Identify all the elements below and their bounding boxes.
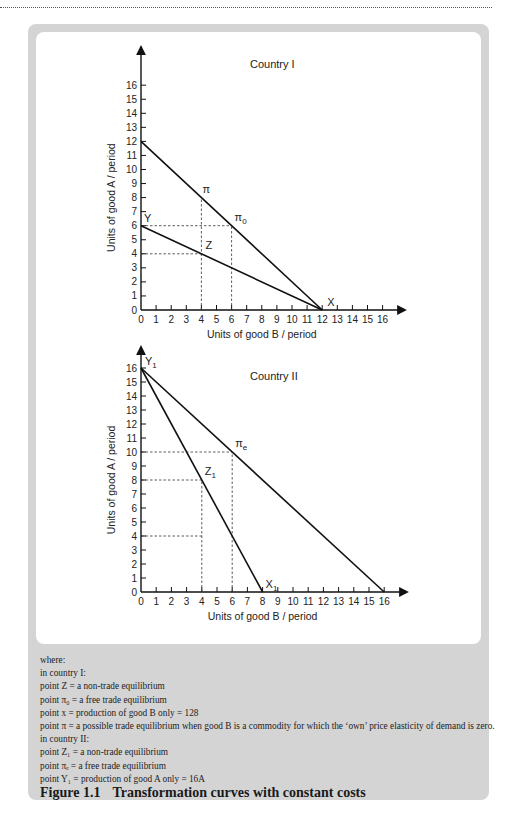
y-tick-label: 6	[131, 220, 137, 231]
curve-line	[141, 226, 322, 310]
y-tick-label: 10	[126, 164, 138, 175]
chart-title: Country I	[250, 58, 295, 70]
y-tick-label: 3	[131, 262, 137, 273]
point-label-y1: Y1	[145, 355, 157, 370]
x-tick-label: 1	[153, 314, 159, 325]
y-tick-label: 15	[126, 377, 138, 388]
point-label-z: Z	[205, 239, 212, 251]
caption-line: point π = a possible trade equilibrium w…	[40, 720, 500, 733]
point-label-pi: π	[202, 183, 210, 195]
point-label-pie: πe	[235, 437, 248, 452]
x-tick-label: 14	[347, 314, 359, 325]
y-tick-label: 3	[131, 545, 137, 556]
point-label-y: Y	[144, 212, 152, 224]
x-tick-label: 4	[199, 314, 205, 325]
y-tick-label: 4	[131, 248, 137, 259]
x-tick-label: 9	[274, 314, 280, 325]
y-tick-label: 9	[131, 178, 137, 189]
y-tick-label: 8	[131, 192, 137, 203]
caption-line: in country I:	[40, 667, 500, 680]
x-tick-label: 7	[245, 596, 251, 607]
y-tick-label: 0	[131, 305, 137, 316]
x-tick-label: 12	[317, 314, 329, 325]
y-tick-label: 16	[126, 80, 138, 91]
y-tick-label: 11	[127, 433, 138, 444]
x-tick-label: 11	[302, 314, 313, 325]
x-tick-label: 12	[318, 596, 330, 607]
caption-line: where:	[40, 654, 500, 667]
y-tick-label: 14	[126, 391, 138, 402]
y-tick-label: 12	[126, 136, 138, 147]
x-tick-label: 6	[229, 596, 235, 607]
x-tick-label: 0	[138, 314, 144, 325]
x-tick-label: 6	[229, 314, 235, 325]
x-tick-label: 3	[184, 314, 190, 325]
y-tick-label: 13	[126, 405, 138, 416]
point-label-z1: Z1	[205, 465, 217, 480]
x-tick-label: 16	[377, 314, 389, 325]
x-tick-label: 3	[184, 596, 190, 607]
x-axis-label: Units of good B / period	[207, 328, 317, 340]
caption-line: point πₑ = a free trade equilibrium	[40, 760, 500, 773]
caption-line: in country II:	[40, 733, 500, 746]
y-axis-label: Units of good A / period	[105, 143, 117, 252]
x-tick-label: 5	[214, 596, 220, 607]
x-axis-label: Units of good B / period	[208, 610, 318, 622]
y-axis-label: Units of good A / period	[105, 426, 117, 535]
x-tick-label: 7	[244, 314, 250, 325]
y-tick-label: 14	[126, 108, 138, 119]
x-tick-label: 14	[348, 596, 360, 607]
y-tick-label: 16	[126, 363, 138, 374]
chart-country-1: 0123456789101112131415160123456789101112…	[105, 50, 402, 340]
x-tick-label: 13	[332, 314, 344, 325]
x-tick-label: 10	[286, 314, 298, 325]
y-tick-label: 4	[131, 531, 137, 542]
point-label-x1: X1	[266, 578, 278, 593]
y-tick-label: 8	[131, 475, 137, 486]
caption-line: point Z₁ = a non-trade equilibrium	[40, 746, 500, 759]
y-tick-label: 13	[126, 122, 138, 133]
y-tick-label: 7	[131, 206, 137, 217]
y-tick-label: 10	[126, 447, 138, 458]
y-tick-label: 0	[131, 587, 137, 598]
chart-country-2: 0123456789101112131415160123456789101112…	[105, 350, 404, 622]
x-tick-label: 8	[260, 596, 266, 607]
x-tick-label: 4	[199, 596, 205, 607]
x-tick-label: 5	[214, 314, 220, 325]
x-tick-label: 10	[287, 596, 299, 607]
point-label-pi0: π0	[235, 211, 248, 226]
figure-title-text: Transformation curves with constant cost…	[112, 785, 365, 800]
y-tick-label: 1	[131, 573, 137, 584]
y-tick-label: 2	[131, 276, 137, 287]
y-tick-label: 2	[131, 559, 137, 570]
x-tick-label: 2	[169, 596, 175, 607]
x-tick-label: 15	[363, 596, 375, 607]
x-tick-label: 8	[259, 314, 265, 325]
y-tick-label: 11	[127, 150, 138, 161]
y-tick-label: 15	[126, 94, 138, 105]
chart-title: Country II	[250, 370, 298, 382]
x-tick-label: 15	[362, 314, 374, 325]
x-tick-label: 16	[379, 596, 391, 607]
y-tick-label: 5	[131, 517, 137, 528]
figure-number: Figure 1.1	[40, 785, 100, 800]
y-tick-label: 6	[131, 503, 137, 514]
x-tick-label: 1	[153, 596, 159, 607]
y-tick-label: 1	[131, 290, 137, 301]
x-tick-label: 2	[168, 314, 174, 325]
point-label-x: X	[327, 296, 335, 308]
figure-caption: where: in country I: point Z = a non-tra…	[40, 654, 500, 786]
x-tick-label: 13	[333, 596, 345, 607]
y-tick-label: 9	[131, 461, 137, 472]
caption-line: point Z = a non-trade equilibrium	[40, 680, 500, 693]
caption-line: point π₀ = a free trade equilibrium	[40, 694, 500, 707]
x-tick-label: 9	[275, 596, 281, 607]
caption-line: point x = production of good B only = 12…	[40, 707, 500, 720]
x-tick-label: 11	[303, 596, 314, 607]
y-tick-label: 7	[131, 489, 137, 500]
figure-title: Figure 1.1Transformation curves with con…	[40, 785, 366, 801]
y-tick-label: 12	[126, 419, 138, 430]
y-tick-label: 5	[131, 234, 137, 245]
x-tick-label: 0	[138, 596, 144, 607]
